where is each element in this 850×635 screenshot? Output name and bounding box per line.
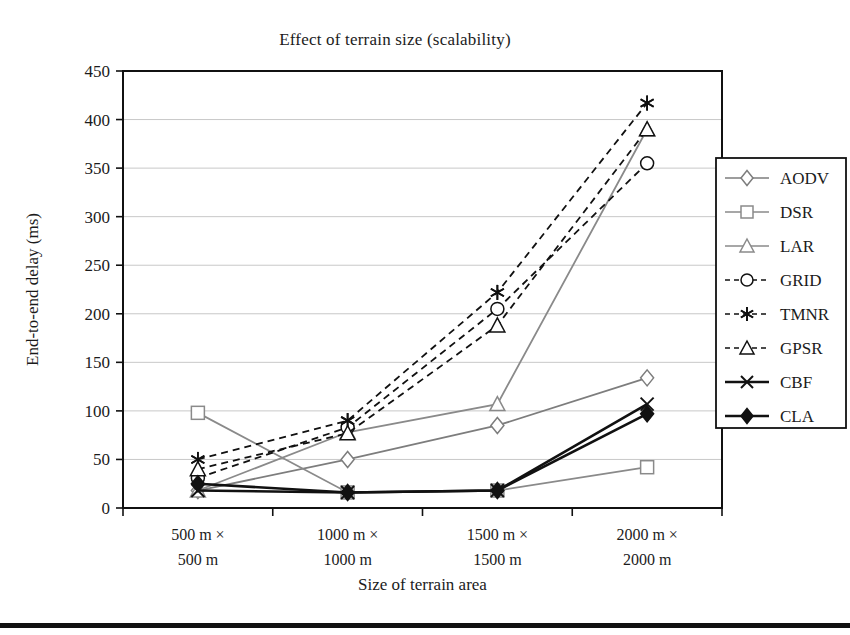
series-line [198, 129, 647, 490]
y-tick-label: 350 [85, 159, 111, 178]
legend-label: DSR [780, 203, 814, 222]
figure-container: Effect of terrain size (scalability) 050… [0, 0, 850, 635]
chart-plot: 050100150200250300350400450 500 m ×500 m… [0, 0, 850, 635]
data-point-diamond [641, 370, 654, 386]
data-point-triangle [490, 397, 505, 411]
x-tick-label: 2000 m × [616, 526, 677, 543]
y-tick-label: 150 [85, 353, 111, 372]
y-axis-ticks [116, 71, 123, 508]
footer-rule [0, 623, 850, 628]
y-tick-label: 450 [85, 62, 111, 81]
series-dsr [191, 406, 653, 499]
y-tick-label: 200 [85, 305, 111, 324]
legend-label: LAR [780, 237, 815, 256]
series-line [198, 103, 647, 459]
series-gpsr [190, 122, 654, 476]
legend-label: CLA [780, 407, 815, 426]
series-line [198, 413, 647, 493]
series-line [198, 378, 647, 491]
x-tick-label: 1500 m × [467, 526, 528, 543]
data-point-square [641, 461, 654, 474]
legend-label: TMNR [780, 305, 830, 324]
y-axis-title: End-to-end delay (ms) [23, 213, 42, 366]
data-point-triangle [490, 318, 505, 332]
gridlines [123, 71, 722, 459]
y-tick-label: 300 [85, 208, 111, 227]
x-tick-label: 1000 m × [317, 526, 378, 543]
data-point-circle [491, 302, 504, 315]
x-tick-label: 1500 m [473, 551, 522, 568]
series-cla [191, 406, 653, 501]
x-tick-label: 500 m × [171, 526, 224, 543]
y-tick-label: 50 [93, 450, 110, 469]
data-point-square [191, 406, 204, 419]
data-point-triangle [640, 122, 655, 136]
data-point-circle [641, 157, 654, 170]
y-tick-label: 250 [85, 256, 111, 275]
chart-legend: AODVDSRLARGRIDTMNRGPSRCBFCLA [716, 158, 846, 428]
series-aodv [191, 370, 653, 499]
series-grid [191, 157, 653, 485]
data-point-circle [741, 274, 753, 286]
data-point-square [741, 206, 753, 218]
series-line [198, 414, 647, 493]
x-axis-ticks [123, 508, 722, 516]
y-tick-label: 0 [102, 499, 111, 518]
x-axis-tick-labels: 500 m ×500 m1000 m ×1000 m1500 m ×1500 m… [171, 526, 678, 568]
y-tick-label: 400 [85, 111, 111, 130]
x-tick-label: 1000 m [323, 551, 372, 568]
x-tick-label: 2000 m [623, 551, 672, 568]
x-axis-title: Size of terrain area [358, 575, 487, 594]
legend-label: GPSR [780, 339, 823, 358]
y-axis-tick-labels: 050100150200250300350400450 [85, 62, 111, 518]
data-point-diamond [491, 417, 504, 433]
x-tick-label: 500 m [178, 551, 219, 568]
series-cbf [191, 398, 653, 499]
y-tick-label: 100 [85, 402, 111, 421]
series-line [198, 163, 647, 478]
legend-label: GRID [780, 271, 822, 290]
legend-label: AODV [780, 169, 830, 188]
data-point-diamond [341, 451, 354, 467]
series-layer [190, 96, 654, 501]
legend-label: CBF [780, 373, 812, 392]
